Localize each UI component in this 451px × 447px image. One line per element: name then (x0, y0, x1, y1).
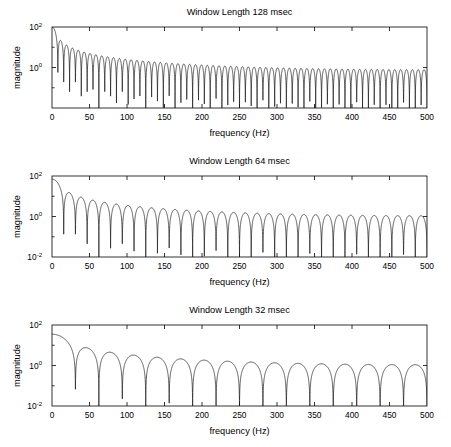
figure-three-window-spectra: Window Length 128 msec050100150200250300… (0, 0, 451, 447)
y-tick-label: 102 (29, 320, 42, 331)
spectrum-curve (52, 179, 427, 257)
x-tick-label: 200 (195, 112, 209, 122)
x-tick-label: 350 (308, 410, 322, 420)
chart-title: Window Length 64 msec (189, 156, 290, 166)
x-tick-label: 100 (120, 112, 134, 122)
x-tick-label: 500 (420, 261, 434, 271)
x-tick-label: 250 (233, 261, 247, 271)
y-tick-label: 100 (29, 62, 42, 73)
y-axis-label: magnitude (12, 195, 22, 238)
x-axis-label: frequency (Hz) (209, 277, 269, 287)
x-tick-label: 200 (195, 261, 209, 271)
x-tick-label: 50 (85, 261, 95, 271)
x-tick-label: 100 (120, 261, 134, 271)
x-tick-label: 350 (308, 261, 322, 271)
y-tick-label: 10-2 (27, 401, 42, 412)
x-tick-label: 450 (383, 112, 397, 122)
plot-panel-128msec: Window Length 128 msec050100150200250300… (0, 0, 451, 149)
y-axis-label: magnitude (12, 46, 22, 89)
x-tick-label: 450 (383, 410, 397, 420)
x-axis-label: frequency (Hz) (209, 128, 269, 138)
x-tick-label: 0 (50, 112, 55, 122)
x-tick-label: 0 (50, 410, 55, 420)
x-tick-label: 500 (420, 112, 434, 122)
chart-svg: Window Length 32 msec0501001502002503003… (0, 298, 451, 447)
x-tick-label: 150 (158, 410, 172, 420)
x-tick-label: 300 (270, 112, 284, 122)
x-tick-label: 250 (233, 410, 247, 420)
spectrum-curve (52, 334, 427, 406)
x-tick-label: 100 (120, 410, 134, 420)
x-tick-label: 500 (420, 410, 434, 420)
chart-title: Window Length 128 msec (187, 7, 293, 17)
plot-panel-64msec: Window Length 64 msec0501001502002503003… (0, 149, 451, 298)
x-tick-label: 150 (158, 112, 172, 122)
y-tick-label: 102 (29, 22, 42, 33)
y-tick-label: 10-2 (27, 252, 42, 263)
y-tick-label: 102 (29, 171, 42, 182)
chart-svg: Window Length 64 msec0501001502002503003… (0, 149, 451, 298)
x-tick-label: 250 (233, 112, 247, 122)
x-tick-label: 300 (270, 261, 284, 271)
y-axis-label: magnitude (12, 344, 22, 387)
y-tick-label: 100 (29, 360, 42, 371)
chart-title: Window Length 32 msec (189, 305, 290, 315)
x-tick-label: 400 (345, 261, 359, 271)
x-tick-label: 150 (158, 261, 172, 271)
x-tick-label: 300 (270, 410, 284, 420)
x-tick-label: 200 (195, 410, 209, 420)
chart-svg: Window Length 128 msec050100150200250300… (0, 0, 451, 149)
spectrum-curve (52, 27, 427, 108)
x-tick-label: 0 (50, 261, 55, 271)
x-tick-label: 50 (85, 410, 95, 420)
x-axis-label: frequency (Hz) (209, 426, 269, 436)
x-tick-label: 350 (308, 112, 322, 122)
x-tick-label: 450 (383, 261, 397, 271)
x-tick-label: 400 (345, 410, 359, 420)
x-tick-label: 50 (85, 112, 95, 122)
plot-panel-32msec: Window Length 32 msec0501001502002503003… (0, 298, 451, 447)
x-tick-label: 400 (345, 112, 359, 122)
y-tick-label: 100 (29, 211, 42, 222)
